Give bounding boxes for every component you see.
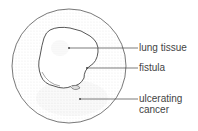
diagram-canvas: lung tissue fistula ulcerating cancer	[0, 0, 198, 131]
label-ulcerating: ulcerating	[139, 94, 182, 104]
label-lung-tissue: lung tissue	[139, 43, 187, 53]
label-fistula: fistula	[139, 63, 165, 73]
lung-tissue-area	[51, 40, 69, 56]
label-cancer: cancer	[139, 105, 169, 115]
